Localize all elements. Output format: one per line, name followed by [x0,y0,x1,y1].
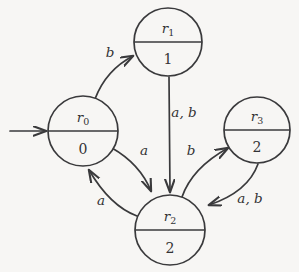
state-node-r3[interactable]: r3 2 [224,97,290,163]
edge-label-r2-to-r3: b [187,142,196,158]
edge-label-r0-to-r2: a [140,142,148,158]
state-r2-output: 2 [166,240,175,256]
edge-label-r0-to-r1: b [106,44,115,60]
state-node-r0[interactable]: r0 0 [48,96,118,166]
edge-label-r3-to-r2: a, b [237,190,262,206]
state-node-r2[interactable]: r2 2 [135,195,205,265]
edge-label-r2-to-r0: a [97,192,105,208]
state-diagram-canvas: r0 0 r1 1 r2 2 r3 [0,0,299,272]
state-node-r1[interactable]: r1 1 [134,8,202,76]
edge-label-r1-to-r2: a, b [171,104,196,120]
state-r2-subscript: 2 [170,215,176,226]
transition-r0-to-r1 [95,56,133,99]
state-r1-subscript: 1 [168,27,174,38]
state-r3-output: 2 [253,139,262,155]
state-r1-output: 1 [164,51,173,67]
state-r3-subscript: 3 [257,115,263,126]
state-r0-output: 0 [79,141,88,157]
transition-r1-to-r2 [169,77,170,192]
state-r0-subscript: 0 [83,116,89,127]
